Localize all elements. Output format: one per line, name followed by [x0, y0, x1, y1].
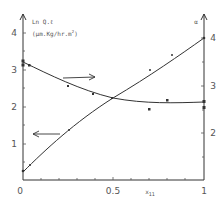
left-axis-title-line1: Ln Q.ℓ: [32, 18, 53, 25]
left-axis-title-line2: (μm.Kg/hr.m2): [32, 29, 78, 38]
alpha-curve: [23, 62, 204, 103]
right-tick-2: 2: [210, 128, 216, 138]
right-axis-title: α: [194, 18, 198, 25]
lnq-points: [22, 37, 206, 173]
left-tick-1: 1: [11, 139, 17, 149]
right-tick-4: 4: [210, 33, 216, 43]
arrow-left-icon: [33, 131, 60, 137]
left-tick-3: 3: [11, 65, 17, 75]
left-tick-4: 4: [11, 28, 17, 38]
x-tick-1: 1: [201, 186, 207, 196]
x-tick-0-5: 0.5: [106, 186, 120, 196]
left-tick-2: 2: [11, 102, 17, 112]
x-axis-label: x11: [145, 188, 155, 197]
lnq-curve: [23, 38, 204, 172]
arrow-right-icon: [63, 74, 95, 80]
chart: 0 0.5 1 x11 1 2 3 4 2 3 4 Ln Q.ℓ (μm.Kg/…: [0, 0, 224, 203]
right-tick-3: 3: [210, 81, 216, 91]
x-tick-0: 0: [17, 186, 23, 196]
